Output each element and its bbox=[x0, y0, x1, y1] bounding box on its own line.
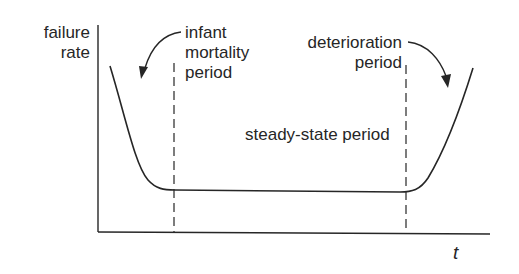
infant-arrow-icon bbox=[145, 32, 181, 68]
deterioration-arrow-icon bbox=[408, 42, 446, 76]
infant-mortality-label: infant mortality period bbox=[185, 23, 249, 83]
steady-state-label: steady-state period bbox=[245, 125, 390, 145]
x-axis bbox=[98, 232, 490, 234]
infant-label-line3: period bbox=[185, 63, 249, 83]
infant-label-line1: infant bbox=[185, 23, 249, 43]
deterioration-label: deterioration period bbox=[290, 33, 402, 73]
infant-label-line2: mortality bbox=[185, 43, 249, 63]
infant-arrowhead-icon bbox=[139, 66, 148, 79]
deterioration-arrowhead-icon bbox=[441, 74, 451, 88]
x-axis-label: t bbox=[453, 243, 458, 263]
y-axis-label: failure rate bbox=[18, 23, 90, 63]
deterioration-label-line2: period bbox=[290, 53, 402, 73]
y-axis-label-line1: failure bbox=[18, 23, 90, 43]
deterioration-label-line1: deterioration bbox=[290, 33, 402, 53]
y-axis-label-line2: rate bbox=[18, 43, 90, 63]
